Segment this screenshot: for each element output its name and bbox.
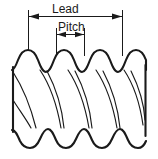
lead-arrowhead-left	[29, 14, 39, 20]
helix-line	[103, 71, 120, 128]
pitch-label: Pitch	[58, 21, 85, 33]
lead-label: Lead	[52, 3, 79, 15]
thread-bottom-profile	[12, 129, 146, 148]
thread-top-profile	[12, 50, 146, 72]
helix-line	[124, 70, 143, 125]
helix-line	[47, 71, 64, 128]
helix-line	[131, 71, 145, 120]
thread-helix-lines	[13, 70, 145, 128]
helix-line	[13, 72, 36, 128]
lead-arrowhead-right	[112, 14, 122, 20]
helix-line	[75, 71, 92, 128]
screw-thread-diagram: Lead Pitch	[0, 0, 158, 159]
